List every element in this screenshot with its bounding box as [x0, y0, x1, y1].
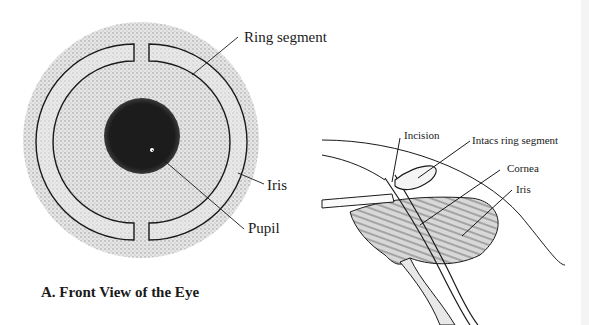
eye-diagram [0, 0, 589, 325]
page-edge [581, 0, 589, 325]
label-cornea: Cornea [507, 163, 539, 174]
label-iris-front: Iris [267, 178, 287, 193]
front-view-eye [23, 22, 264, 258]
pupil [104, 98, 180, 174]
label-pupil: Pupil [248, 221, 280, 236]
label-iris-side: Iris [516, 184, 531, 195]
figure-caption: A. Front View of the Eye [41, 284, 199, 301]
iris-tissue [350, 197, 498, 264]
label-intacs-ring-segment: Intacs ring segment [472, 135, 558, 146]
label-incision: Incision [404, 130, 439, 141]
label-ring-segment: Ring segment [244, 30, 327, 45]
